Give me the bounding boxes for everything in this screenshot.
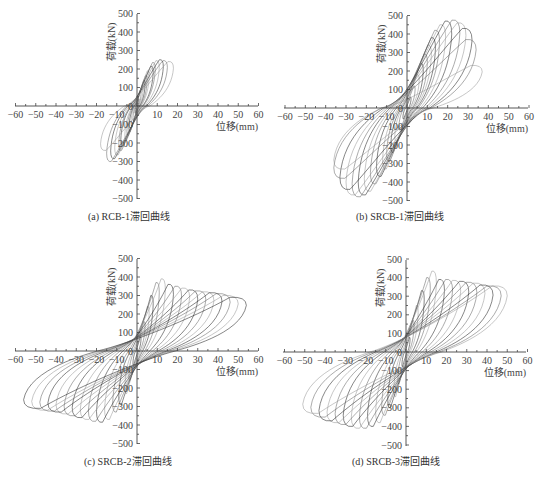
x-tick-label: 40 [483, 111, 493, 122]
x-tick-label: −40 [48, 109, 64, 120]
y-axis-title: 荷载(kN) [106, 268, 118, 307]
x-tick-label: −30 [337, 355, 353, 366]
x-tick-label: 30 [193, 109, 203, 120]
y-tick-label: −200 [112, 138, 133, 149]
x-tick-label: 30 [463, 111, 473, 122]
y-tick-label: −100 [382, 121, 403, 132]
chart-panel-b: −60−50−40−30−20−10102030405060−500−400−3… [268, 0, 536, 240]
chart-svg-c: −60−50−40−30−20−10102030405060−500−400−3… [0, 240, 268, 480]
y-tick-label: −300 [112, 156, 133, 167]
x-tick-label: −60 [8, 354, 24, 365]
y-tick-label: 200 [388, 66, 403, 77]
y-tick-label: −400 [112, 420, 133, 431]
x-tick-label: 40 [213, 354, 223, 365]
x-tick-label: 60 [523, 355, 533, 366]
y-tick-label: 400 [388, 29, 403, 40]
x-tick-label: −30 [68, 109, 84, 120]
y-tick-label: 300 [388, 47, 403, 58]
y-axis-title: 荷载(kN) [376, 25, 388, 64]
y-axis-title: 荷载(kN) [375, 269, 387, 308]
x-tick-label: −50 [298, 111, 314, 122]
y-tick-label: −100 [112, 364, 133, 375]
x-tick-label: 10 [152, 109, 162, 120]
y-tick-label: −500 [112, 438, 133, 449]
x-tick-label: −60 [277, 111, 293, 122]
y-tick-label: 500 [388, 10, 403, 21]
x-tick-label: 50 [504, 111, 514, 122]
x-tick-label: −50 [28, 109, 44, 120]
x-tick-label: 60 [254, 109, 264, 120]
x-tick-label: 40 [482, 355, 492, 366]
x-tick-label: −40 [317, 355, 333, 366]
hysteresis-loop [303, 286, 508, 414]
x-tick-label: 10 [422, 111, 432, 122]
chart-panel-c: −60−50−40−30−20−10102030405060−500−400−3… [0, 240, 268, 480]
y-tick-label: 200 [118, 64, 133, 75]
y-tick-label: 100 [118, 82, 133, 93]
caption-d: (d) SRCB-3滞回曲线 [352, 453, 440, 468]
x-tick-label: −60 [277, 355, 293, 366]
chart-svg-b: −60−50−40−30−20−10102030405060−500−400−3… [268, 0, 536, 240]
y-tick-label: 400 [118, 272, 133, 283]
y-tick-label: 100 [387, 328, 402, 339]
hysteresis-loops [303, 271, 508, 429]
y-tick-label: −300 [381, 402, 402, 413]
x-tick-label: 50 [233, 109, 243, 120]
x-tick-label: 10 [152, 354, 162, 365]
x-axis-title: 位移(mm) [486, 122, 528, 135]
x-tick-label: 20 [173, 109, 183, 120]
y-tick-label: −300 [112, 401, 133, 412]
chart-svg-d: −60−50−40−30−20−10102030405060−500−400−3… [268, 240, 536, 480]
x-axis-title: 位移(mm) [216, 120, 258, 133]
x-tick-label: 60 [254, 354, 264, 365]
x-tick-label: 10 [421, 355, 431, 366]
y-tick-label: 100 [118, 327, 133, 338]
y-tick-label: 0 [398, 103, 403, 114]
y-tick-label: −100 [381, 365, 402, 376]
x-tick-label: 20 [443, 111, 453, 122]
hysteresis-loop [346, 23, 466, 195]
y-axis-title: 荷载(kN) [106, 23, 118, 62]
y-tick-label: 0 [397, 347, 402, 358]
x-tick-label: 50 [502, 355, 512, 366]
hysteresis-loops [24, 279, 247, 423]
x-tick-label: 50 [233, 354, 243, 365]
x-tick-label: −30 [338, 111, 354, 122]
y-tick-label: 500 [118, 253, 133, 264]
x-tick-label: −60 [8, 109, 24, 120]
y-tick-label: −200 [381, 384, 402, 395]
x-axis-title: 位移(mm) [484, 366, 526, 379]
chart-panel-a: −60−50−40−30−20−10102030405060−500−400−3… [0, 0, 268, 240]
y-tick-label: 300 [387, 291, 402, 302]
x-tick-label: −50 [28, 354, 44, 365]
caption-b: (b) SRCB-1滞回曲线 [356, 208, 444, 223]
y-tick-label: −500 [112, 193, 133, 204]
y-tick-label: 400 [387, 272, 402, 283]
caption-c: (c) SRCB-2滞回曲线 [84, 453, 172, 468]
chart-panel-d: −60−50−40−30−20−10102030405060−500−400−3… [268, 240, 536, 480]
x-tick-label: −20 [358, 355, 374, 366]
chart-svg-a: −60−50−40−30−20−10102030405060−500−400−3… [0, 0, 268, 240]
y-tick-label: −200 [382, 140, 403, 151]
x-tick-label: 30 [462, 355, 472, 366]
hysteresis-loop [64, 291, 206, 416]
x-axis-title: 位移(mm) [216, 365, 258, 378]
y-tick-label: −300 [382, 158, 403, 169]
x-tick-label: −20 [89, 109, 105, 120]
y-tick-label: 200 [387, 309, 402, 320]
x-tick-label: −50 [297, 355, 313, 366]
x-tick-label: −40 [318, 111, 334, 122]
x-tick-label: 40 [213, 109, 223, 120]
y-tick-label: −500 [382, 195, 403, 206]
y-tick-label: 200 [118, 309, 133, 320]
hysteresis-loops [334, 20, 482, 197]
y-tick-label: −500 [381, 440, 402, 451]
y-tick-label: −400 [112, 175, 133, 186]
x-tick-label: 30 [193, 354, 203, 365]
y-tick-label: −200 [112, 383, 133, 394]
x-tick-label: −40 [48, 354, 64, 365]
y-tick-label: 500 [118, 8, 133, 19]
x-tick-label: 20 [173, 354, 183, 365]
y-tick-label: 500 [387, 254, 402, 265]
x-tick-label: −20 [359, 111, 375, 122]
